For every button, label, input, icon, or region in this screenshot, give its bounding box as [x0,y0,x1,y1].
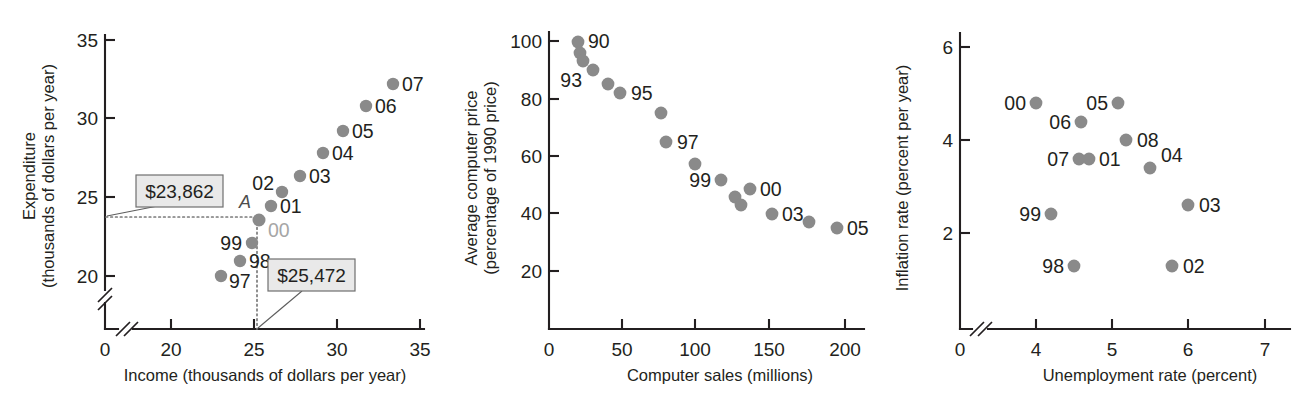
y-axis-title-line1: Expenditure [20,132,38,220]
data-point-93 [587,64,600,77]
y-tick-label-6: 6 [942,37,953,58]
data-label-04: 04 [1161,144,1183,166]
data-label-93: 93 [560,69,582,91]
x-tick-label-100: 100 [679,339,711,360]
data-point-00 [744,183,757,196]
data-point-04 [803,216,816,229]
y-axis-ticks [105,40,115,276]
data-point-06 [360,100,372,112]
callout-label-23862: $23,862 [145,181,214,202]
data-point-99 [246,237,258,249]
y-axis-title-line2: (percentage of 1990 price) [481,81,499,275]
y-tick-label-20: 20 [521,261,542,282]
data-point-00 [253,214,266,227]
x-tick-label-6: 6 [1183,339,1194,360]
data-label-05: 05 [1086,92,1108,114]
x-tick-label-35: 35 [409,339,430,360]
data-label-97: 97 [677,131,699,153]
data-point-05 [831,222,844,235]
data-point-90 [572,36,585,49]
y-axis-ticks [960,47,970,233]
data-label-06: 06 [375,95,397,117]
data-label-06: 06 [1049,111,1071,133]
y-axis-ticks [549,41,559,271]
y-tick-label-30: 30 [77,108,98,129]
data-label-02: 02 [252,172,274,194]
chart-computer-price-vs-sales: Average computer price (percentage of 19… [430,0,870,398]
data-point-05 [1112,97,1125,110]
data-label-03: 03 [309,165,331,187]
y-tick-label-35: 35 [77,30,98,51]
x-tick-label-50: 50 [611,339,632,360]
data-label-99: 99 [220,232,242,254]
data-point-98 [234,255,246,267]
data-point-92 [577,55,590,68]
x-tick-label-30: 30 [326,339,347,360]
data-label-05: 05 [352,120,374,142]
x-tick-label-4: 4 [1031,339,1042,360]
chart-expenditure-vs-income: Expenditure (thousands of dollars per ye… [0,0,440,398]
y-axis-title-line2: (thousands of dollars per year) [39,64,57,288]
callout-income-value: $25,472 [268,259,355,291]
data-point-01 [1083,153,1096,166]
data-point-03 [1182,199,1195,212]
data-label-01: 01 [280,195,302,217]
data-point-06 [1075,116,1088,129]
callout-leader-x [258,291,302,328]
data-point-04 [1144,162,1157,175]
x-axis-ticks [171,319,420,329]
callout-expenditure-value: $23,862 [136,175,223,207]
data-label-08: 08 [1137,129,1159,151]
data-label-07: 07 [402,73,424,95]
data-point-95 [614,87,627,100]
y-tick-label-2: 2 [942,223,953,244]
data-label-00: 00 [268,219,290,241]
x-tick-label-20: 20 [160,339,181,360]
computer-chart-svg: Average computer price (percentage of 19… [430,0,870,398]
data-label-90: 90 [588,30,610,52]
data-label-98: 98 [1042,255,1064,277]
data-label-97: 97 [229,270,251,292]
callout-label-25472: $25,472 [277,265,346,286]
data-point-99 [715,174,728,187]
x-tick-label-0: 0 [100,339,111,360]
data-point-99 [1045,208,1058,221]
data-point-05 [337,125,349,137]
scatter-diagram-figure: Expenditure (thousands of dollars per ye… [0,0,1293,398]
x-tick-label-0: 0 [955,339,966,360]
x-tick-label-200: 200 [829,339,861,360]
data-label-02: 02 [1183,255,1205,277]
data-label-99: 99 [689,169,711,191]
data-point-97 [215,270,227,282]
y-tick-label-60: 60 [521,146,542,167]
data-label-01: 01 [1099,148,1121,170]
x-axis-ticks [622,319,845,329]
data-point-96 [655,107,668,120]
x-axis-title: Computer sales (millions) [627,366,813,384]
data-point-02 [735,199,748,212]
x-tick-label-25: 25 [243,339,264,360]
x-tick-label-5: 5 [1107,339,1118,360]
y-tick-label-100: 100 [510,31,542,52]
x-tick-label-0: 0 [544,339,555,360]
y-tick-label-20: 20 [77,266,98,287]
data-label-03: 03 [782,203,804,225]
x-tick-label-7: 7 [1260,339,1271,360]
data-label-95: 95 [631,82,653,104]
chart-inflation-vs-unemployment: Inflation rate (percent per year) 6 4 2 [860,0,1293,398]
inflation-chart-svg: Inflation rate (percent per year) 6 4 2 [860,0,1293,398]
y-axis-title: Inflation rate (percent per year) [893,65,911,292]
expenditure-chart-svg: Expenditure (thousands of dollars per ye… [0,0,440,398]
x-tick-label-150: 150 [753,339,785,360]
data-label-99: 99 [1019,203,1041,225]
data-label-A: A [238,192,251,212]
x-axis-title: Income (thousands of dollars per year) [124,366,406,384]
data-point-00 [1030,97,1043,110]
x-axis-ticks [1036,319,1265,329]
data-label-00: 00 [760,178,782,200]
data-point-98 [1068,260,1081,273]
x-axis-title: Unemployment rate (percent) [1043,366,1258,384]
data-point-03 [766,208,779,221]
y-tick-label-40: 40 [521,203,542,224]
data-label-03: 03 [1199,194,1221,216]
